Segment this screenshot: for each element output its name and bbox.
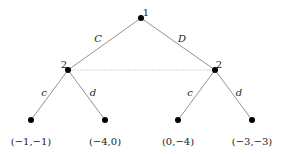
action-label-C: C <box>94 33 102 44</box>
action-label-right-c: c <box>187 87 193 98</box>
edge-right-c <box>178 70 215 120</box>
payoff-label: (−1,−1) <box>11 136 51 147</box>
game-tree <box>0 0 284 154</box>
edge-left-d <box>68 70 105 120</box>
action-label-right-d: d <box>236 87 242 98</box>
leaf-node <box>175 117 181 123</box>
leaf-node <box>28 117 34 123</box>
action-label-left-c: c <box>41 87 47 98</box>
p2-right-player-label: 2 <box>216 59 222 70</box>
leaf-node <box>249 117 255 123</box>
edge-left-c <box>31 70 68 120</box>
payoff-label: (−4,0) <box>89 136 121 147</box>
p2-left-player-label: 2 <box>61 59 67 70</box>
edge-right-d <box>215 70 252 120</box>
action-label-D: D <box>178 33 186 44</box>
payoff-label: (−3,−3) <box>232 136 272 147</box>
edge-C <box>68 18 141 70</box>
action-label-left-d: d <box>90 87 96 98</box>
payoff-label: (0,−4) <box>162 136 194 147</box>
leaf-node <box>102 117 108 123</box>
edge-D <box>141 18 215 70</box>
root-player-label: 1 <box>143 7 149 18</box>
